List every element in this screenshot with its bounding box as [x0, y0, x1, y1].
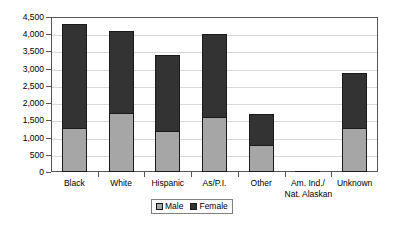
x-tick-mark [191, 172, 192, 177]
bar-segment-female[interactable] [295, 171, 320, 172]
bar-segment-male[interactable] [62, 128, 87, 172]
x-axis-label: Am. Ind./Nat. Alaskan [285, 178, 332, 199]
legend-item-female[interactable]: Female [190, 202, 227, 211]
x-axis-label-line: As/P.I. [191, 178, 238, 189]
x-axis-label-line: Black [51, 178, 98, 189]
y-tick-label: 4,000 [0, 30, 44, 39]
bar-segment-female[interactable] [155, 55, 180, 131]
bar-segment-female[interactable] [342, 73, 367, 128]
x-axis-label: Black [51, 178, 98, 189]
y-axis: 4,5004,0003,5003,0002,5002,0001,5001,000… [0, 0, 44, 225]
x-axis-label: Hispanic [144, 178, 191, 189]
y-tick-label: 3,500 [0, 47, 44, 56]
stacked-bar-chart: 4,5004,0003,5003,0002,5002,0001,5001,000… [0, 0, 397, 225]
bar-stack[interactable] [155, 55, 180, 172]
x-tick-mark [98, 172, 99, 177]
bar-group[interactable] [295, 17, 320, 172]
x-tick-mark [238, 172, 239, 177]
x-axis-label-line: Hispanic [144, 178, 191, 189]
bar-group[interactable] [249, 17, 274, 172]
bar-stack[interactable] [62, 24, 87, 172]
bar-stack[interactable] [295, 171, 320, 172]
bar-segment-female[interactable] [62, 24, 87, 128]
bar-stack[interactable] [202, 34, 227, 172]
bar-segment-male[interactable] [342, 128, 367, 172]
y-tick-label: 1,000 [0, 133, 44, 142]
chart-legend: MaleFemale [151, 199, 233, 214]
bar-segment-male[interactable] [202, 117, 227, 172]
x-axis-label-line: Am. Ind./ [285, 178, 332, 189]
bars-layer [51, 17, 378, 172]
legend-swatch-female-icon [190, 203, 197, 210]
bar-segment-female[interactable] [202, 34, 227, 117]
y-tick-label: 3,000 [0, 64, 44, 73]
bar-group[interactable] [62, 17, 87, 172]
bar-stack[interactable] [109, 31, 134, 172]
bar-group[interactable] [202, 17, 227, 172]
x-axis-label: Unknown [331, 178, 378, 189]
bar-segment-male[interactable] [109, 113, 134, 172]
x-tick-mark [331, 172, 332, 177]
x-axis-label: White [98, 178, 145, 189]
y-tick-label: 4,500 [0, 13, 44, 22]
bar-stack[interactable] [342, 73, 367, 172]
y-tick-label: 1,500 [0, 116, 44, 125]
bar-group[interactable] [109, 17, 134, 172]
x-tick-mark [285, 172, 286, 177]
x-axis-label: As/P.I. [191, 178, 238, 189]
y-tick-label: 0 [0, 168, 44, 177]
legend-swatch-male-icon [156, 203, 163, 210]
y-tick-mark [46, 172, 51, 173]
x-axis-label-line: Other [238, 178, 285, 189]
bar-segment-male[interactable] [249, 145, 274, 172]
bar-segment-female[interactable] [109, 31, 134, 114]
x-axis-label-line: Nat. Alaskan [285, 189, 332, 200]
bar-group[interactable] [342, 17, 367, 172]
legend-label: Male [165, 202, 183, 211]
x-axis-label-line: White [98, 178, 145, 189]
legend-item-male[interactable]: Male [156, 202, 183, 211]
bar-segment-female[interactable] [249, 114, 274, 145]
y-tick-label: 2,000 [0, 99, 44, 108]
x-axis-label-line: Unknown [331, 178, 378, 189]
bar-segment-male[interactable] [155, 131, 180, 172]
y-tick-label: 500 [0, 150, 44, 159]
bar-group[interactable] [155, 17, 180, 172]
legend-label: Female [199, 202, 227, 211]
bar-stack[interactable] [249, 114, 274, 172]
x-tick-mark [144, 172, 145, 177]
y-tick-label: 2,500 [0, 81, 44, 90]
x-axis-label: Other [238, 178, 285, 189]
